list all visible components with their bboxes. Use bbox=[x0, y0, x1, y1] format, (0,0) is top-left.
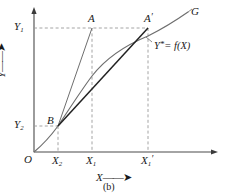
figure-panel: Y1 Y2 O X2 X1 X1′ A A′ B G Y*= f(X) X——➤… bbox=[0, 0, 226, 194]
axis-label-y2: Y2 bbox=[14, 119, 24, 131]
axis-label-x1-prime: X1′ bbox=[141, 155, 153, 167]
axis-label-origin: O bbox=[24, 154, 32, 165]
function-label: Y*= f(X) bbox=[154, 40, 190, 51]
x-axis-group bbox=[34, 149, 218, 154]
function-label-leader bbox=[146, 37, 152, 42]
point-label-b: B bbox=[47, 115, 54, 126]
chord-b-to-a-prime bbox=[58, 28, 148, 126]
x-axis-arrowhead bbox=[211, 149, 218, 154]
curve-label-g: G bbox=[191, 6, 199, 17]
plot-canvas bbox=[0, 0, 226, 194]
point-label-a-prime: A′ bbox=[144, 13, 153, 24]
curve-g bbox=[34, 12, 188, 152]
y-axis-title: Y——➤ bbox=[0, 44, 7, 78]
chord-b-to-a bbox=[58, 28, 92, 126]
y-axis-arrowhead bbox=[31, 7, 36, 14]
y-axis-group bbox=[31, 7, 36, 152]
axis-label-x1: X1 bbox=[86, 155, 96, 167]
axis-label-y1: Y1 bbox=[14, 21, 24, 33]
figure-caption: (b) bbox=[103, 182, 115, 192]
point-label-a: A bbox=[88, 13, 95, 24]
axis-label-x2: X2 bbox=[52, 155, 62, 167]
